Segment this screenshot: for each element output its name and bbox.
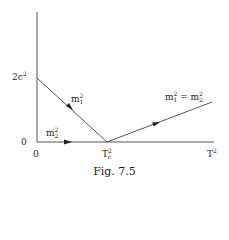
equal-mass-label: m21 = m22 (165, 93, 203, 102)
equal-mass-curve (107, 102, 212, 142)
figure-caption: Fig. 7.5 (0, 165, 229, 178)
x-axis-label-t2: T2 (207, 150, 217, 159)
t-sup: 2 (213, 147, 217, 154)
m1-label: m21 (71, 95, 83, 104)
m2-label: m22 (46, 129, 58, 138)
equals-sign: = (180, 92, 188, 102)
eq-m2-sub: 2 (199, 96, 203, 103)
m1-sub: 1 (79, 98, 83, 105)
y-tick-sup: 2 (23, 70, 27, 77)
y-tick-zero: 0 (21, 138, 27, 147)
x-tick-zero: 0 (33, 150, 39, 159)
eq-m2-base: m (191, 92, 200, 102)
arrow-icon-m2 (64, 140, 72, 145)
tc-sub: c (108, 153, 111, 160)
y-tick-2c2: 2c2 (12, 73, 27, 82)
eq-m1-sub: 1 (173, 96, 177, 103)
y-tick-base: 2c (12, 72, 23, 82)
arrow-icon-m1 (66, 103, 73, 110)
m2-sub: 2 (54, 132, 58, 139)
x-tick-tc2: T2c (102, 150, 111, 159)
arrow-icon-equal (152, 122, 160, 127)
